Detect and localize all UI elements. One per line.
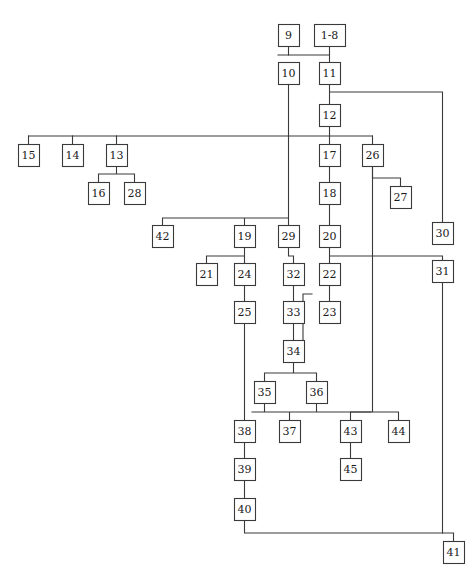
node-label: 35 xyxy=(258,386,272,399)
node-39[interactable]: 39 xyxy=(235,459,256,481)
node-45[interactable]: 45 xyxy=(341,459,362,481)
node-20[interactable]: 20 xyxy=(320,226,341,248)
node-label: 28 xyxy=(128,187,142,200)
nodes-layer: 91-8101112151413172616281827421929203021… xyxy=(19,25,465,564)
node-16[interactable]: 16 xyxy=(89,183,110,205)
node-label: 44 xyxy=(392,425,406,438)
node-label: 37 xyxy=(283,425,297,438)
node-24[interactable]: 24 xyxy=(235,264,256,286)
node-31[interactable]: 31 xyxy=(433,261,454,283)
node-label: 10 xyxy=(282,67,296,80)
node-label: 13 xyxy=(110,149,124,162)
node-label: 20 xyxy=(323,230,337,243)
node-label: 17 xyxy=(323,149,337,162)
node-label: 40 xyxy=(238,503,252,516)
node-34[interactable]: 34 xyxy=(284,341,305,363)
node-15[interactable]: 15 xyxy=(19,145,40,167)
node-label: 14 xyxy=(66,149,80,162)
node-label: 41 xyxy=(447,546,461,559)
node-14[interactable]: 14 xyxy=(63,145,84,167)
edge-bar-218-to-42-19 xyxy=(163,218,289,225)
node-10[interactable]: 10 xyxy=(279,63,300,85)
node-label: 27 xyxy=(394,191,408,204)
node-label: 43 xyxy=(344,425,358,438)
node-27[interactable]: 27 xyxy=(391,187,412,209)
node-30[interactable]: 30 xyxy=(433,223,454,245)
edge-11-to-30 xyxy=(330,92,443,222)
node-label: 23 xyxy=(323,306,337,319)
node-21[interactable]: 21 xyxy=(197,264,218,286)
edge-junction-262-to-43-44 xyxy=(351,262,399,420)
edge-29-to-32 xyxy=(289,247,294,263)
node-26[interactable]: 26 xyxy=(363,145,384,167)
node-label: 36 xyxy=(310,386,324,399)
node-19[interactable]: 19 xyxy=(235,226,256,248)
node-label: 24 xyxy=(238,268,252,281)
node-37[interactable]: 37 xyxy=(280,421,301,443)
node-label: 18 xyxy=(323,187,337,200)
diagram-canvas: 91-8101112151413172616281827421929203021… xyxy=(0,0,476,575)
node-label: 25 xyxy=(238,306,252,319)
node-11[interactable]: 11 xyxy=(320,63,341,85)
node-label: 42 xyxy=(156,230,170,243)
node-label: 45 xyxy=(344,463,358,476)
node-44[interactable]: 44 xyxy=(389,421,410,443)
node-41[interactable]: 41 xyxy=(444,542,465,564)
node-label: 21 xyxy=(200,268,214,281)
node-label: 9 xyxy=(285,29,292,42)
node-label: 34 xyxy=(287,345,301,358)
node-9[interactable]: 9 xyxy=(279,25,300,47)
node-40[interactable]: 40 xyxy=(235,499,256,521)
node-label: 38 xyxy=(238,425,252,438)
node-17[interactable]: 17 xyxy=(320,145,341,167)
node-label: 32 xyxy=(287,268,301,281)
edge-26-to-27 xyxy=(373,166,401,186)
node-23[interactable]: 23 xyxy=(320,302,341,324)
node-42[interactable]: 42 xyxy=(153,226,174,248)
node-43[interactable]: 43 xyxy=(341,421,362,443)
node-32[interactable]: 32 xyxy=(284,264,305,286)
node-25[interactable]: 25 xyxy=(235,302,256,324)
node-label: 39 xyxy=(238,463,252,476)
node-label: 1-8 xyxy=(321,29,339,42)
node-label: 29 xyxy=(282,230,296,243)
node-label: 16 xyxy=(92,187,106,200)
edge-19-to-21-24 xyxy=(207,247,245,263)
node-1-8[interactable]: 1-8 xyxy=(315,25,346,47)
node-29[interactable]: 29 xyxy=(279,226,300,248)
node-label: 22 xyxy=(323,268,337,281)
edge-34-to-35-36 xyxy=(265,362,317,381)
node-label: 11 xyxy=(323,67,337,80)
edge-20-bar-to-31 xyxy=(330,256,443,260)
node-label: 15 xyxy=(22,149,36,162)
node-label: 33 xyxy=(287,306,301,319)
node-label: 19 xyxy=(238,230,252,243)
node-33[interactable]: 33 xyxy=(284,302,305,324)
node-label: 30 xyxy=(436,227,450,240)
node-label: 12 xyxy=(323,109,337,122)
node-12[interactable]: 12 xyxy=(320,105,341,127)
node-38[interactable]: 38 xyxy=(235,421,256,443)
node-22[interactable]: 22 xyxy=(320,264,341,286)
node-36[interactable]: 36 xyxy=(307,382,328,404)
tree-diagram-svg: 91-8101112151413172616281827421929203021… xyxy=(0,0,476,575)
node-label: 31 xyxy=(436,265,450,278)
node-18[interactable]: 18 xyxy=(320,183,341,205)
node-28[interactable]: 28 xyxy=(125,183,146,205)
node-13[interactable]: 13 xyxy=(107,145,128,167)
node-label: 26 xyxy=(366,149,380,162)
edge-40-to-41 xyxy=(245,520,454,541)
edge-13-to-16-28 xyxy=(99,166,135,182)
node-35[interactable]: 35 xyxy=(255,382,276,404)
